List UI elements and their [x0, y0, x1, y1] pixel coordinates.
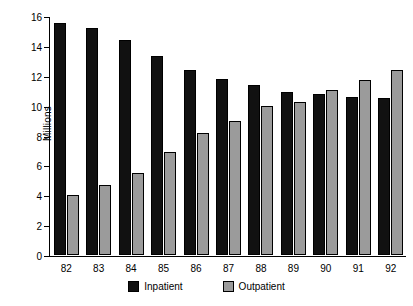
bar-outpatient-90 [326, 90, 338, 255]
bar-group-86 [184, 16, 209, 255]
y-tick-mark [44, 256, 49, 257]
x-tick-label-88: 88 [255, 263, 266, 274]
y-tick-mark [44, 77, 49, 78]
bar-inpatient-86 [184, 70, 196, 255]
bar-group-83 [86, 16, 111, 255]
chart-legend: InpatientOutpatient [0, 281, 413, 292]
y-tick-label: 8 [36, 131, 42, 142]
bar-group-85 [151, 16, 176, 255]
bar-inpatient-83 [86, 28, 98, 255]
bar-chart: Millions 0246810121416 82838485868788899… [0, 0, 413, 306]
y-tick-label: 12 [31, 71, 42, 82]
bar-outpatient-92 [391, 70, 403, 255]
bar-outpatient-88 [261, 106, 273, 255]
x-tick-label-92: 92 [385, 263, 396, 274]
y-tick-label: 0 [36, 251, 42, 262]
y-axis-line [49, 17, 50, 257]
bar-inpatient-84 [119, 40, 131, 255]
x-tick-label-82: 82 [61, 263, 72, 274]
bar-group-87 [216, 16, 241, 255]
legend-swatch-inpatient-icon [128, 281, 139, 292]
x-tick-label-87: 87 [223, 263, 234, 274]
bar-inpatient-91 [346, 97, 358, 255]
bar-group-90 [313, 16, 338, 255]
bar-group-91 [346, 16, 371, 255]
x-tick-label-91: 91 [353, 263, 364, 274]
legend-entry-inpatient[interactable]: Inpatient [128, 281, 182, 292]
y-tick-label: 2 [36, 221, 42, 232]
x-tick-label-86: 86 [190, 263, 201, 274]
bar-group-84 [119, 16, 144, 255]
legend-label-inpatient: Inpatient [144, 281, 182, 292]
y-tick-label: 16 [31, 12, 42, 23]
bar-inpatient-82 [54, 23, 66, 255]
bar-outpatient-91 [359, 80, 371, 255]
y-tick-mark [44, 47, 49, 48]
bar-group-88 [248, 16, 273, 255]
y-tick-mark [44, 107, 49, 108]
legend-entry-outpatient[interactable]: Outpatient [223, 281, 285, 292]
y-tick-mark [44, 196, 49, 197]
bar-group-92 [378, 16, 403, 255]
bar-group-82 [54, 16, 79, 255]
legend-label-outpatient: Outpatient [239, 281, 285, 292]
y-tick-label: 14 [31, 41, 42, 52]
x-tick-label-85: 85 [158, 263, 169, 274]
bar-outpatient-86 [197, 133, 209, 255]
x-tick-label-90: 90 [320, 263, 331, 274]
bar-outpatient-85 [164, 152, 176, 255]
bar-inpatient-92 [378, 98, 390, 255]
y-tick-mark [44, 166, 49, 167]
bar-outpatient-82 [67, 195, 79, 255]
x-axis-line [49, 256, 406, 257]
x-tick-label-84: 84 [126, 263, 137, 274]
bar-inpatient-90 [313, 94, 325, 255]
legend-swatch-outpatient-icon [223, 281, 234, 292]
y-tick-mark [44, 226, 49, 227]
y-tick-mark [44, 137, 49, 138]
bar-outpatient-87 [229, 121, 241, 255]
bar-group-89 [281, 16, 306, 255]
bar-inpatient-88 [248, 85, 260, 255]
plot-area: 0246810121416 8283848586878889909192 [49, 17, 406, 256]
x-tick-label-83: 83 [93, 263, 104, 274]
bar-inpatient-89 [281, 92, 293, 255]
y-tick-label: 6 [36, 161, 42, 172]
bar-inpatient-87 [216, 79, 228, 255]
bar-outpatient-89 [294, 102, 306, 255]
y-tick-mark [44, 17, 49, 18]
y-tick-label: 4 [36, 191, 42, 202]
bar-outpatient-84 [132, 173, 144, 255]
bar-inpatient-85 [151, 56, 163, 255]
y-tick-label: 10 [31, 101, 42, 112]
bar-outpatient-83 [99, 185, 111, 255]
x-tick-label-89: 89 [288, 263, 299, 274]
